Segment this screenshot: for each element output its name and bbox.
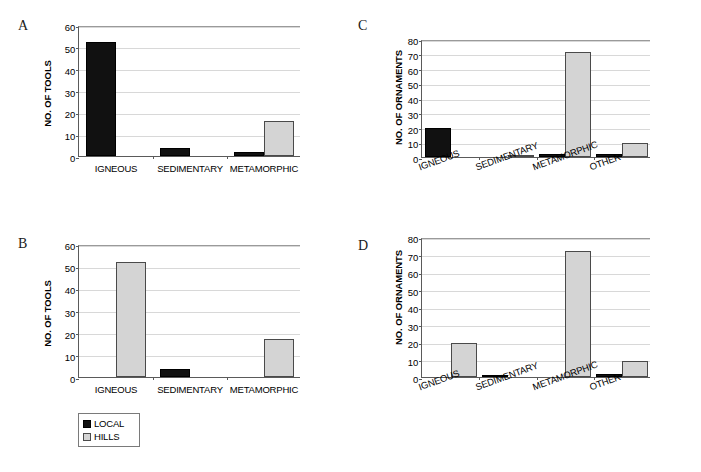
x-axis-tick-label: METAMORPHIC (230, 384, 298, 395)
x-axis-tick-label: SEDIMENTARY (157, 163, 223, 174)
gridline (422, 100, 650, 101)
bar-local-sedimentary (160, 369, 190, 377)
x-axis-tick-mark (153, 377, 154, 380)
figure-page: { "figure": { "legend": { "items": [ { "… (0, 0, 701, 472)
panel-b-y-axis-label: NO. OF TOOLS (42, 264, 53, 364)
panel-letter-c: C (358, 18, 367, 34)
legend-item-hills: HILLS (83, 430, 134, 443)
bar-hills-other (622, 361, 648, 377)
x-axis-tick-label: METAMORPHIC (230, 163, 298, 174)
panel-letter-d: D (358, 238, 368, 254)
gridline (422, 114, 650, 115)
bar-hills-metamorphic (264, 121, 294, 156)
y-axis-tick-label: 50 (408, 80, 422, 91)
y-axis-tick-label: 70 (408, 50, 422, 61)
y-axis-tick-label: 60 (408, 65, 422, 76)
y-axis-tick-label: 0 (70, 374, 79, 385)
bar-hills-other (622, 143, 648, 157)
bar-local-sedimentary (160, 148, 190, 156)
gridline (79, 268, 300, 269)
gridline (422, 41, 650, 42)
gridline (422, 55, 650, 56)
gridline (422, 85, 650, 86)
legend-swatch-hills-icon (83, 433, 91, 441)
gridline (422, 274, 650, 275)
y-axis-tick-label: 50 (65, 43, 79, 54)
x-axis-tick-mark (227, 156, 228, 159)
x-axis-tick-label: SEDIMENTARY (157, 384, 223, 395)
panel-c-y-axis-label: NO. OF ORNAMENTS (393, 33, 404, 163)
panel-a-y-axis-label: NO. OF TOOLS (42, 44, 53, 144)
legend-label-hills: HILLS (94, 431, 119, 442)
legend-swatch-local-icon (83, 420, 91, 428)
gridline (79, 290, 300, 291)
y-axis-tick-label: 30 (408, 109, 422, 120)
gridline (422, 129, 650, 130)
gridline (422, 70, 650, 71)
panel-d-y-axis-label: NO. OF ORNAMENTS (393, 233, 404, 363)
x-axis-tick-mark (153, 156, 154, 159)
y-axis-tick-label: 40 (408, 304, 422, 315)
legend: LOCAL HILLS (78, 413, 140, 447)
y-axis-tick-label: 30 (408, 321, 422, 332)
gridline (79, 312, 300, 313)
panel-b-plot-area: 0102030405060IGNEOUSSEDIMENTARYMETAMORPH… (78, 245, 300, 378)
y-axis-tick-label: 20 (408, 339, 422, 350)
y-axis-tick-label: 30 (65, 307, 79, 318)
panel-letter-b: B (18, 236, 27, 252)
y-axis-tick-label: 10 (65, 131, 79, 142)
y-axis-tick-label: 20 (65, 329, 79, 340)
panel-c-plot-area: 01020304050607080IGNEOUSSEDIMENTARYMETAM… (421, 40, 650, 158)
bar-hills-metamorphic (565, 251, 591, 377)
gridline (79, 246, 300, 247)
y-axis-tick-label: 60 (408, 269, 422, 280)
y-axis-tick-label: 20 (408, 124, 422, 135)
y-axis-tick-label: 40 (65, 65, 79, 76)
y-axis-tick-label: 40 (408, 95, 422, 106)
y-axis-tick-label: 80 (408, 36, 422, 47)
bar-local-igneous (86, 42, 116, 156)
panel-a-plot-area: 0102030405060IGNEOUSSEDIMENTARYMETAMORPH… (78, 26, 300, 157)
gridline (422, 239, 650, 240)
y-axis-tick-label: 60 (65, 241, 79, 252)
gridline (422, 326, 650, 327)
panel-letter-a: A (18, 18, 28, 34)
y-axis-tick-label: 10 (408, 139, 422, 150)
x-axis-tick-label: IGNEOUS (417, 367, 461, 392)
y-axis-tick-label: 50 (65, 263, 79, 274)
y-axis-tick-label: 0 (70, 153, 79, 164)
x-axis-tick-label: IGNEOUS (95, 384, 137, 395)
panel-d-plot-area: 01020304050607080IGNEOUSSEDIMENTARYMETAM… (421, 238, 650, 378)
y-axis-tick-label: 50 (408, 286, 422, 297)
gridline (79, 334, 300, 335)
bar-local-metamorphic (234, 152, 264, 156)
bar-hills-igneous (116, 262, 146, 377)
y-axis-tick-label: 70 (408, 251, 422, 262)
bar-hills-metamorphic (264, 339, 294, 377)
y-axis-tick-label: 10 (408, 356, 422, 367)
legend-label-local: LOCAL (94, 418, 124, 429)
gridline (422, 256, 650, 257)
gridline (79, 27, 300, 28)
y-axis-tick-label: 30 (65, 87, 79, 98)
y-axis-tick-label: 10 (65, 351, 79, 362)
x-axis-tick-label: IGNEOUS (95, 163, 137, 174)
y-axis-tick-label: 20 (65, 109, 79, 120)
y-axis-tick-label: 40 (65, 285, 79, 296)
y-axis-tick-label: 60 (65, 22, 79, 33)
x-axis-tick-mark (227, 377, 228, 380)
gridline (422, 291, 650, 292)
legend-item-local: LOCAL (83, 417, 134, 430)
y-axis-tick-label: 80 (408, 234, 422, 245)
gridline (422, 309, 650, 310)
